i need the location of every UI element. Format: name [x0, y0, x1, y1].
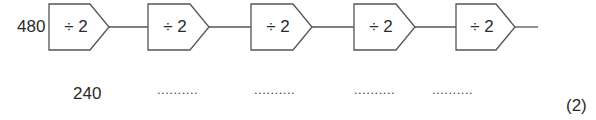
operator-label-2: ÷ 2 [155, 17, 195, 37]
marks-label: (2) [566, 96, 587, 116]
answer-blank-2[interactable]: .......... [157, 82, 198, 97]
result-1: 240 [73, 84, 101, 104]
operator-label-1: ÷ 2 [56, 17, 96, 37]
operator-label-5: ÷ 2 [462, 17, 502, 37]
operator-label-3: ÷ 2 [258, 17, 298, 37]
answer-blank-3[interactable]: .......... [254, 82, 295, 97]
start-value: 480 [17, 17, 45, 37]
answer-blank-5[interactable]: .......... [432, 82, 473, 97]
answer-blank-4[interactable]: .......... [354, 82, 395, 97]
operator-label-4: ÷ 2 [361, 17, 401, 37]
